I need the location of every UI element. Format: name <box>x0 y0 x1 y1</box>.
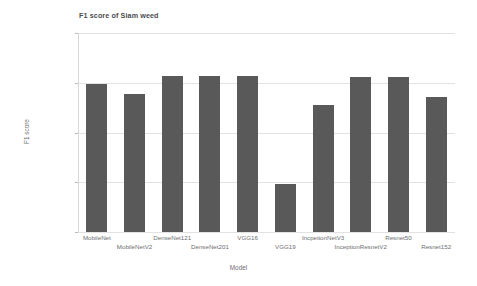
plot-area <box>78 33 455 232</box>
y-tick-mark <box>75 33 78 34</box>
x-tick-label: VGG19 <box>275 243 296 250</box>
x-tick-label: IncpetionNetV3 <box>302 234 344 241</box>
bar <box>86 84 107 232</box>
x-tick-label: Resnet152 <box>421 243 451 250</box>
bar <box>388 77 409 232</box>
gridline <box>78 33 455 34</box>
x-tick-label: DenseNet121 <box>153 234 191 241</box>
bar <box>162 76 183 232</box>
y-axis-title: F1 score <box>23 102 30 162</box>
bar <box>313 105 334 232</box>
bar <box>124 94 145 232</box>
x-tick-label: MobileNetV2 <box>117 243 152 250</box>
x-axis-title: Model <box>0 264 477 271</box>
bar-chart-figure: F1 score of Siam weed F1 score 0.80.850.… <box>0 0 477 286</box>
y-tick-mark <box>75 83 78 84</box>
bar <box>237 76 258 232</box>
x-tick-label: VGG16 <box>237 234 258 241</box>
bar <box>350 77 371 232</box>
chart-title: F1 score of Siam weed <box>79 11 159 20</box>
bar <box>275 184 296 232</box>
x-tick-label: Resnet50 <box>385 234 412 241</box>
y-tick-mark <box>75 133 78 134</box>
x-tick-label: MobileNet <box>83 234 111 241</box>
x-tick-label: InceptionResnetV2 <box>335 243 387 250</box>
y-tick-mark <box>75 232 78 233</box>
y-tick-mark <box>75 182 78 183</box>
bar <box>426 97 447 232</box>
x-tick-label: DenseNet201 <box>191 243 229 250</box>
bar <box>199 76 220 232</box>
gridline <box>78 232 455 233</box>
